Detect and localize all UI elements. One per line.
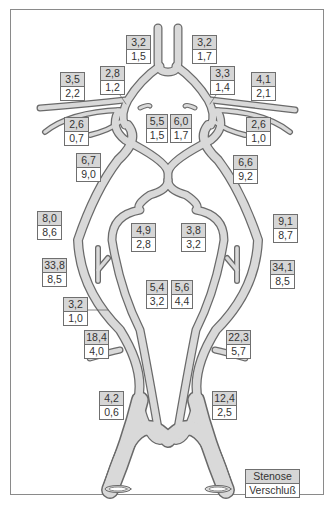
verschluss-value: 0,6 [100, 406, 123, 419]
legend: Stenose Verschluß [245, 469, 300, 498]
label-subclavian-left: 4,20,6 [99, 391, 124, 420]
stenose-value: 3,2 [193, 36, 216, 50]
verschluss-value: 1,4 [211, 81, 234, 94]
verschluss-value: 1,5 [147, 129, 167, 142]
label-mca-left: 3,52,2 [60, 72, 85, 101]
stenose-value: 3,8 [182, 224, 205, 238]
verschluss-value: 8,6 [38, 226, 61, 239]
label-vertebral-upper-left: 4,92,8 [131, 223, 156, 252]
label-vertebral-mid-right: 5,64,4 [171, 280, 193, 309]
verschluss-value: 4,0 [85, 345, 108, 358]
verschluss-value: 9,2 [234, 170, 257, 183]
verschluss-value: 8,7 [274, 229, 297, 242]
verschluss-value: 8,5 [43, 273, 66, 286]
verschluss-value: 1,7 [193, 50, 216, 63]
stenose-value: 33,8 [43, 259, 66, 273]
stenose-value: 34,1 [271, 261, 294, 275]
verschluss-value: 1,2 [101, 81, 124, 94]
stenose-value: 4,2 [100, 392, 123, 406]
legend-verschluss: Verschluß [246, 484, 299, 497]
stenose-value: 3,5 [61, 73, 84, 87]
verschluss-value: 3,2 [147, 295, 167, 308]
label-vertebral-origin-right: 22,35,7 [226, 330, 251, 359]
label-carotid-bifurcation-right: 34,18,5 [270, 260, 295, 289]
verschluss-value: 1,5 [127, 50, 150, 63]
verschluss-value: 1,0 [64, 312, 87, 325]
label-pcom-right: 6,01,7 [170, 114, 192, 143]
verschluss-value: 2,5 [213, 406, 236, 419]
stenose-value: 18,4 [85, 331, 108, 345]
stenose-value: 5,6 [172, 281, 192, 295]
stenose-value: 4,1 [252, 73, 275, 87]
stenose-value: 6,0 [171, 115, 191, 129]
stenose-value: 6,6 [234, 156, 257, 170]
verschluss-value: 4,4 [172, 295, 192, 308]
legend-stenose: Stenose [246, 470, 299, 484]
stenose-value: 5,4 [147, 281, 167, 295]
verschluss-value: 2,1 [252, 87, 275, 100]
verschluss-value: 1,7 [171, 129, 191, 142]
label-ica-siphon-right: 6,69,2 [233, 155, 258, 184]
verschluss-value: 1,0 [247, 132, 270, 145]
verschluss-value: 9,0 [77, 168, 100, 181]
label-aca-left: 3,21,5 [126, 35, 151, 64]
label-vertebral-upper-right: 3,83,2 [181, 223, 206, 252]
label-ica-cervical-right: 9,18,7 [273, 214, 298, 243]
label-vertebral-mid-left: 5,43,2 [146, 280, 168, 309]
verschluss-value: 3,2 [182, 238, 205, 251]
stenose-value: 4,9 [132, 224, 155, 238]
verschluss-value: 5,7 [227, 345, 250, 358]
verschluss-value: 8,5 [271, 275, 294, 288]
stenose-value: 22,3 [227, 331, 250, 345]
stenose-value: 3,2 [64, 298, 87, 312]
label-pca-right: 2,61,0 [246, 117, 271, 146]
stenose-value: 5,5 [147, 115, 167, 129]
label-ica-top-left: 2,81,2 [100, 66, 125, 95]
stenose-value: 12,4 [213, 392, 236, 406]
label-mca-right: 4,12,1 [251, 72, 276, 101]
stenose-value: 9,1 [274, 215, 297, 229]
label-pcom-left: 5,51,5 [146, 114, 168, 143]
verschluss-value: 0,7 [65, 132, 88, 145]
stenose-value: 2,8 [101, 67, 124, 81]
stenose-value: 6,7 [77, 154, 100, 168]
verschluss-value: 2,8 [132, 238, 155, 251]
label-ica-top-right: 3,31,4 [210, 66, 235, 95]
label-ica-cervical-left: 8,08,6 [37, 211, 62, 240]
verschluss-value: 2,2 [61, 87, 84, 100]
label-cca-left: 3,21,0 [63, 297, 88, 326]
label-ica-siphon-left: 6,79,0 [76, 153, 101, 182]
stenose-value: 2,6 [65, 118, 88, 132]
label-pca-left: 2,60,7 [64, 117, 89, 146]
stenose-value: 8,0 [38, 212, 61, 226]
stenose-value: 2,6 [247, 118, 270, 132]
label-vertebral-origin-left: 18,44,0 [84, 330, 109, 359]
label-subclavian-right: 12,42,5 [212, 391, 237, 420]
stenose-value: 3,2 [127, 36, 150, 50]
label-carotid-bifurcation-left: 33,88,5 [42, 258, 67, 287]
label-aca-right: 3,21,7 [192, 35, 217, 64]
stenose-value: 3,3 [211, 67, 234, 81]
